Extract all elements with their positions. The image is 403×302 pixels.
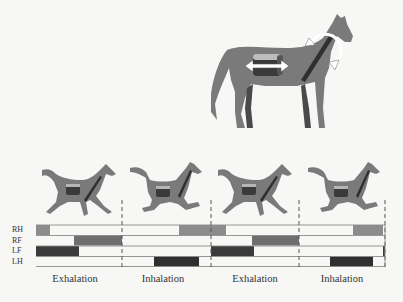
stance-bar-lf xyxy=(211,246,254,256)
stance-bar-rh xyxy=(179,225,226,235)
phase-label-exhalation-2: Exhalation xyxy=(215,273,295,284)
stance-bar-rh xyxy=(353,225,383,235)
stance-bar-lh xyxy=(330,257,373,267)
stance-bar-rh xyxy=(36,225,50,235)
phase-label-inhalation-2: Inhalation xyxy=(302,273,382,284)
stance-bar-rf xyxy=(74,236,122,246)
phase-label-exhalation-1: Exhalation xyxy=(35,273,115,284)
stance-bar-lh xyxy=(154,257,199,267)
footfall-timing-chart xyxy=(0,0,403,302)
stance-bar-lf xyxy=(36,246,79,256)
stance-bar-rf xyxy=(252,236,299,246)
phase-label-inhalation-1: Inhalation xyxy=(123,273,203,284)
